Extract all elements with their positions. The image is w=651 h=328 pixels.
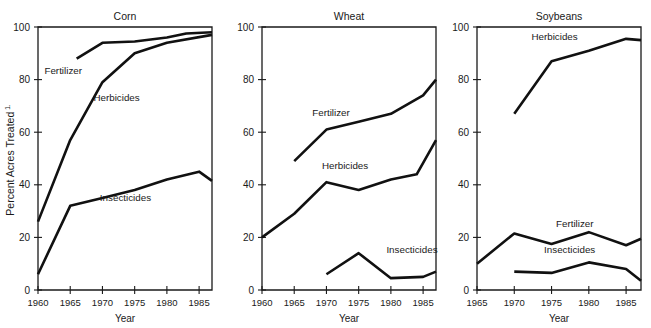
xtick-label-corn-1965: 1965 xyxy=(60,297,81,308)
panel-title-corn: Corn xyxy=(114,10,137,22)
series-label-corn-insecticides: Insecticides xyxy=(100,192,151,203)
yaxis-title-text: Percent Acres Treated xyxy=(4,112,16,216)
xtick-label-soybeans-1970: 1970 xyxy=(504,297,525,308)
ytick-label-wheat-100: 100 xyxy=(237,22,254,33)
xtick-label-soybeans-1985: 1985 xyxy=(616,297,637,308)
xtick-label-wheat-1980: 1980 xyxy=(380,297,401,308)
xtick-label-wheat-1965: 1965 xyxy=(284,297,305,308)
xtick-label-wheat-1970: 1970 xyxy=(316,297,337,308)
series-label-corn-fertilizer: Fertilizer xyxy=(44,65,82,76)
figure-multi-panel-pesticide-usage: Corn020406080100196019651970197519801985… xyxy=(0,0,651,328)
ytick-label-corn-60: 60 xyxy=(19,127,31,138)
xtick-label-wheat-1975: 1975 xyxy=(348,297,369,308)
series-line-soybeans-insecticides xyxy=(514,262,641,280)
series-line-wheat-fertilizer xyxy=(294,80,436,162)
series-line-wheat-insecticides xyxy=(326,253,436,278)
ytick-label-wheat-0: 0 xyxy=(248,285,254,296)
panel-title-wheat: Wheat xyxy=(334,10,364,22)
ytick-label-corn-100: 100 xyxy=(13,22,30,33)
yaxis-title-footnote-marker: 1. xyxy=(4,104,11,110)
ytick-label-soybeans-60: 60 xyxy=(458,127,470,138)
yaxis-title: Percent Acres Treated1. xyxy=(4,104,16,216)
xtick-label-corn-1975: 1975 xyxy=(124,297,145,308)
series-label-wheat-fertilizer: Fertilizer xyxy=(312,107,350,118)
xaxis-title-wheat: Year xyxy=(339,313,360,324)
ytick-label-corn-0: 0 xyxy=(24,285,30,296)
ytick-label-wheat-20: 20 xyxy=(243,232,255,243)
series-line-corn-insecticides xyxy=(38,172,212,275)
xtick-label-corn-1985: 1985 xyxy=(189,297,210,308)
xtick-label-soybeans-1975: 1975 xyxy=(541,297,562,308)
xaxis-title-corn: Year xyxy=(115,313,136,324)
xtick-label-soybeans-1980: 1980 xyxy=(578,297,599,308)
ytick-label-soybeans-100: 100 xyxy=(452,22,469,33)
series-label-corn-herbicides: Herbicides xyxy=(93,92,139,103)
series-label-wheat-herbicides: Herbicides xyxy=(322,160,368,171)
ytick-label-wheat-60: 60 xyxy=(243,127,255,138)
ytick-label-wheat-40: 40 xyxy=(243,179,255,190)
xaxis-title-soybeans: Year xyxy=(549,313,570,324)
series-label-soybeans-fertilizer: Fertilizer xyxy=(556,218,594,229)
series-label-soybeans-herbicides: Herbicides xyxy=(531,31,577,42)
series-line-soybeans-herbicides xyxy=(514,39,641,114)
series-label-wheat-insecticides: Insecticides xyxy=(386,244,437,255)
series-label-soybeans-insecticides: Insecticides xyxy=(544,244,595,255)
ytick-label-wheat-80: 80 xyxy=(243,74,255,85)
ytick-label-soybeans-0: 0 xyxy=(463,285,469,296)
xtick-label-soybeans-1965: 1965 xyxy=(466,297,487,308)
series-line-wheat-herbicides xyxy=(262,140,436,237)
ytick-label-corn-80: 80 xyxy=(19,74,31,85)
ytick-label-soybeans-20: 20 xyxy=(458,232,470,243)
ytick-label-soybeans-40: 40 xyxy=(458,179,470,190)
xtick-label-corn-1980: 1980 xyxy=(156,297,177,308)
ytick-label-corn-20: 20 xyxy=(19,232,31,243)
xtick-label-corn-1960: 1960 xyxy=(27,297,48,308)
ytick-label-soybeans-80: 80 xyxy=(458,74,470,85)
chart-canvas: Corn020406080100196019651970197519801985… xyxy=(0,0,651,328)
panel-title-soybeans: Soybeans xyxy=(536,10,583,22)
series-line-corn-fertilizer xyxy=(77,32,212,58)
ytick-label-corn-40: 40 xyxy=(19,179,31,190)
xtick-label-corn-1970: 1970 xyxy=(92,297,113,308)
xtick-label-wheat-1960: 1960 xyxy=(251,297,272,308)
xtick-label-wheat-1985: 1985 xyxy=(413,297,434,308)
